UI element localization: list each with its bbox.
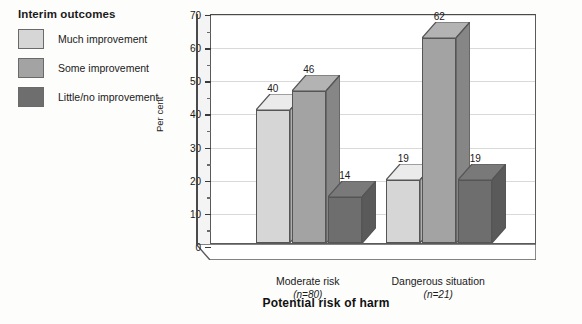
y-tick-major (205, 148, 211, 149)
bar-1-2 (292, 91, 326, 243)
y-tick-minor (207, 131, 211, 132)
y-tick-minor (207, 65, 211, 66)
bar-2-1 (386, 180, 420, 243)
x-axis-title: Potential risk of harm (0, 296, 582, 310)
plot-frame: 010203040506070404614196219 (210, 14, 536, 244)
legend-label-little-no-improvement: Little/no improvement (58, 91, 158, 103)
bar-1-3 (328, 197, 362, 243)
y-axis-line (196, 14, 198, 246)
y-tick-major (205, 214, 211, 215)
bar-side-face (492, 164, 506, 243)
bar-value-label: 19 (470, 153, 481, 164)
y-axis-title: Per cent (154, 97, 165, 132)
bar-front-face (328, 197, 362, 243)
grid-line (211, 81, 535, 82)
legend-swatch-much-improvement (18, 29, 44, 49)
y-tick-major (205, 81, 211, 82)
bar-value-label: 19 (398, 153, 409, 164)
bar-front-face (458, 180, 492, 243)
y-tick-minor (207, 98, 211, 99)
bar-value-label: 14 (339, 170, 350, 181)
y-tick-major (205, 15, 211, 16)
grid-line (211, 48, 535, 49)
bar-side-face (362, 181, 376, 243)
y-tick-major (205, 114, 211, 115)
legend-swatch-some-improvement (18, 58, 44, 78)
y-tick-major (205, 181, 211, 182)
bar-value-label: 62 (434, 11, 445, 22)
bar-2-2 (422, 38, 456, 243)
legend-title: Interim outcomes (18, 8, 188, 20)
plot-area: 010203040506070404614196219 Per cent Mod… (196, 14, 536, 260)
legend-swatch-little-no-improvement (18, 87, 44, 107)
y-tick-major (205, 48, 211, 49)
bar-front-face (422, 38, 456, 243)
y-tick-minor (207, 164, 211, 165)
y-tick-minor (207, 230, 211, 231)
legend-label-some-improvement: Some improvement (58, 62, 149, 74)
bar-value-label: 46 (303, 64, 314, 75)
legend-label-much-improvement: Much improvement (58, 33, 147, 45)
bar-2-3 (458, 180, 492, 243)
x-axis-title-text: Potential risk of harm (262, 296, 389, 310)
bar-front-face (386, 180, 420, 243)
chart-figure: Interim outcomes Much improvement Some i… (0, 0, 582, 324)
plot-floor (196, 244, 536, 260)
category-name: Dangerous situation (391, 275, 484, 287)
bar-1-1 (256, 110, 290, 243)
chart-legend: Interim outcomes Much improvement Some i… (18, 8, 188, 107)
y-tick-major (205, 247, 211, 248)
bar-front-face (292, 91, 326, 243)
category-name: Moderate risk (276, 275, 340, 287)
bar-value-label: 40 (267, 83, 278, 94)
bar-front-face (256, 110, 290, 243)
y-tick-minor (207, 32, 211, 33)
y-tick-minor (207, 197, 211, 198)
legend-item-much-improvement: Much improvement (18, 29, 188, 49)
grid-line (211, 15, 535, 16)
legend-item-some-improvement: Some improvement (18, 58, 188, 78)
